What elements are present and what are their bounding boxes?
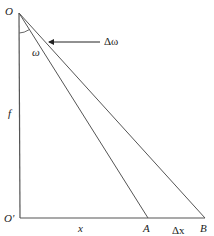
label-x: x (78, 223, 83, 234)
line-o-a (19, 13, 148, 218)
label-o: O (5, 6, 13, 17)
omega-angle-arc (19, 30, 29, 34)
label-o-prime: O' (4, 213, 14, 224)
label-b: B (200, 223, 207, 234)
label-omega: ω (32, 47, 40, 58)
label-delta-x: Δx (172, 225, 185, 236)
label-delta-omega: Δω (104, 36, 118, 47)
line-o-oprime (19, 13, 20, 218)
label-a: A (143, 223, 150, 234)
label-f: f (8, 108, 11, 119)
